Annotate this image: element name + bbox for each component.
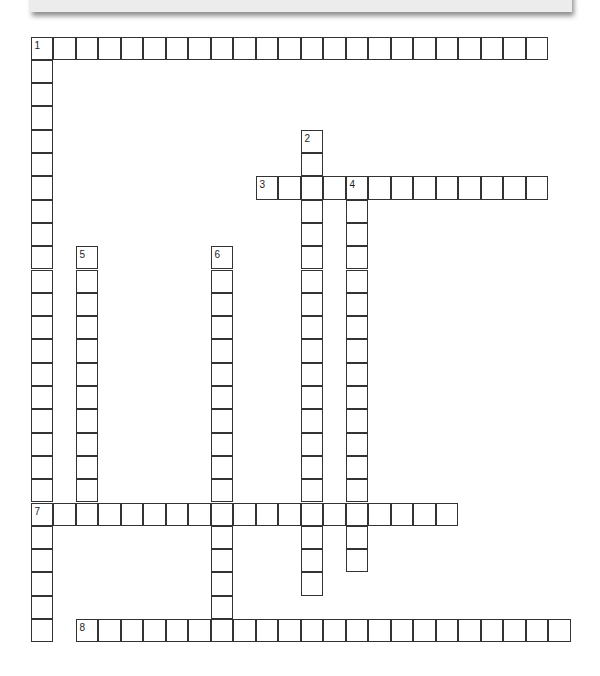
- crossword-cell[interactable]: [301, 223, 324, 246]
- crossword-cell[interactable]: [413, 619, 436, 642]
- crossword-cell[interactable]: [323, 37, 346, 60]
- crossword-cell[interactable]: [31, 409, 54, 432]
- crossword-cell[interactable]: [413, 37, 436, 60]
- crossword-cell[interactable]: [301, 246, 324, 269]
- crossword-cell[interactable]: [346, 37, 369, 60]
- crossword-cell[interactable]: [301, 200, 324, 223]
- crossword-cell[interactable]: [211, 526, 234, 549]
- crossword-cell[interactable]: [143, 619, 166, 642]
- crossword-cell[interactable]: 6: [211, 246, 234, 269]
- crossword-cell[interactable]: [76, 316, 99, 339]
- crossword-cell[interactable]: [368, 37, 391, 60]
- crossword-cell[interactable]: [211, 270, 234, 293]
- crossword-cell[interactable]: [166, 37, 189, 60]
- crossword-cell[interactable]: [323, 619, 346, 642]
- crossword-cell[interactable]: [301, 270, 324, 293]
- crossword-cell[interactable]: [98, 619, 121, 642]
- crossword-cell[interactable]: 2: [301, 130, 324, 153]
- crossword-cell[interactable]: [31, 200, 54, 223]
- crossword-cell[interactable]: [211, 293, 234, 316]
- crossword-cell[interactable]: [121, 503, 144, 526]
- crossword-cell[interactable]: 4: [346, 176, 369, 199]
- crossword-cell[interactable]: [211, 479, 234, 502]
- crossword-cell[interactable]: [31, 572, 54, 595]
- crossword-cell[interactable]: [323, 176, 346, 199]
- crossword-cell[interactable]: [301, 572, 324, 595]
- crossword-cell[interactable]: [391, 37, 414, 60]
- crossword-cell[interactable]: [346, 619, 369, 642]
- crossword-cell[interactable]: [391, 619, 414, 642]
- crossword-cell[interactable]: [31, 596, 54, 619]
- crossword-cell[interactable]: [76, 386, 99, 409]
- crossword-cell[interactable]: [368, 619, 391, 642]
- crossword-cell[interactable]: [121, 619, 144, 642]
- crossword-cell[interactable]: [31, 270, 54, 293]
- crossword-cell[interactable]: [391, 176, 414, 199]
- crossword-cell[interactable]: [391, 503, 414, 526]
- crossword-cell[interactable]: [211, 549, 234, 572]
- crossword-cell[interactable]: [301, 549, 324, 572]
- crossword-cell[interactable]: [31, 339, 54, 362]
- crossword-cell[interactable]: [368, 176, 391, 199]
- crossword-cell[interactable]: [301, 176, 324, 199]
- crossword-cell[interactable]: [346, 456, 369, 479]
- crossword-cell[interactable]: [31, 176, 54, 199]
- crossword-cell[interactable]: [346, 316, 369, 339]
- crossword-cell[interactable]: [458, 619, 481, 642]
- crossword-cell[interactable]: [98, 503, 121, 526]
- crossword-cell[interactable]: [301, 293, 324, 316]
- crossword-cell[interactable]: [188, 503, 211, 526]
- crossword-cell[interactable]: 7: [31, 503, 54, 526]
- crossword-cell[interactable]: [211, 386, 234, 409]
- crossword-cell[interactable]: [211, 456, 234, 479]
- crossword-cell[interactable]: [503, 37, 526, 60]
- crossword-cell[interactable]: [368, 503, 391, 526]
- crossword-cell[interactable]: [31, 316, 54, 339]
- crossword-cell[interactable]: [31, 246, 54, 269]
- crossword-cell[interactable]: [346, 270, 369, 293]
- crossword-cell[interactable]: [256, 503, 279, 526]
- crossword-cell[interactable]: [346, 246, 369, 269]
- crossword-cell[interactable]: [31, 549, 54, 572]
- crossword-cell[interactable]: [346, 339, 369, 362]
- crossword-cell[interactable]: [346, 479, 369, 502]
- crossword-cell[interactable]: [233, 37, 256, 60]
- crossword-cell[interactable]: [76, 503, 99, 526]
- crossword-cell[interactable]: [301, 456, 324, 479]
- crossword-cell[interactable]: [481, 619, 504, 642]
- crossword-cell[interactable]: [346, 386, 369, 409]
- crossword-cell[interactable]: [413, 503, 436, 526]
- crossword-cell[interactable]: [436, 503, 459, 526]
- crossword-cell[interactable]: [301, 433, 324, 456]
- crossword-cell[interactable]: [346, 526, 369, 549]
- crossword-cell[interactable]: [278, 37, 301, 60]
- crossword-cell[interactable]: [458, 176, 481, 199]
- crossword-cell[interactable]: [121, 37, 144, 60]
- crossword-cell[interactable]: [211, 596, 234, 619]
- crossword-cell[interactable]: [211, 619, 234, 642]
- crossword-cell[interactable]: [346, 293, 369, 316]
- crossword-cell[interactable]: [76, 339, 99, 362]
- crossword-cell[interactable]: [143, 37, 166, 60]
- crossword-cell[interactable]: [76, 456, 99, 479]
- crossword-cell[interactable]: 3: [256, 176, 279, 199]
- crossword-cell[interactable]: 8: [76, 619, 99, 642]
- crossword-cell[interactable]: [76, 433, 99, 456]
- crossword-cell[interactable]: [548, 619, 571, 642]
- crossword-cell[interactable]: [526, 37, 549, 60]
- crossword-cell[interactable]: [166, 619, 189, 642]
- crossword-cell[interactable]: [301, 479, 324, 502]
- crossword-cell[interactable]: [346, 433, 369, 456]
- crossword-cell[interactable]: [301, 339, 324, 362]
- crossword-cell[interactable]: [76, 363, 99, 386]
- crossword-cell[interactable]: [301, 409, 324, 432]
- crossword-cell[interactable]: [301, 619, 324, 642]
- crossword-cell[interactable]: [301, 503, 324, 526]
- crossword-cell[interactable]: [211, 433, 234, 456]
- crossword-cell[interactable]: [31, 456, 54, 479]
- crossword-cell[interactable]: [211, 409, 234, 432]
- crossword-cell[interactable]: [503, 176, 526, 199]
- crossword-cell[interactable]: [301, 363, 324, 386]
- crossword-cell[interactable]: [211, 316, 234, 339]
- crossword-cell[interactable]: [76, 409, 99, 432]
